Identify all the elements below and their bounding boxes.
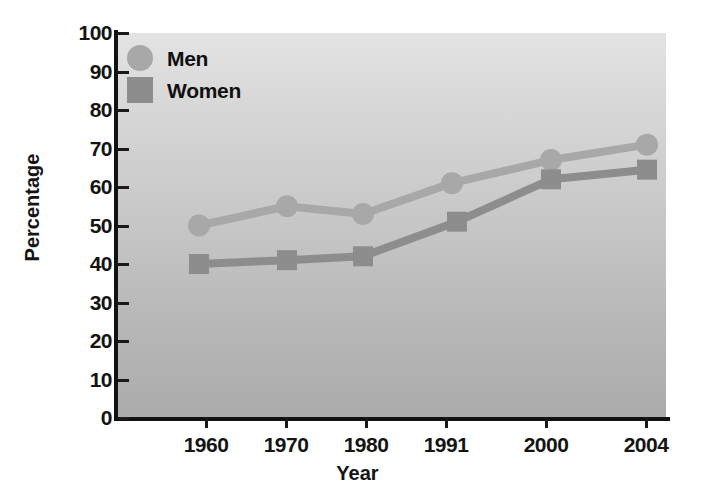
men-circle-marker-icon — [127, 45, 153, 71]
y-tick-label-30: 30 — [56, 292, 112, 313]
x-tick-1980 — [365, 417, 368, 428]
legend: Men Women — [127, 42, 297, 106]
x-tick-2004 — [645, 417, 648, 428]
y-tick-label-50: 50 — [56, 215, 112, 236]
data-point-women-2004 — [637, 160, 657, 180]
data-point-women-2000 — [541, 169, 561, 189]
y-tick-label-80: 80 — [56, 99, 112, 120]
x-tick-label-1960: 1960 — [184, 434, 229, 455]
series-men — [188, 134, 658, 237]
x-tick-label-2004: 2004 — [624, 434, 669, 455]
x-tick-label-1991: 1991 — [424, 434, 469, 455]
data-point-women-1960 — [189, 254, 209, 274]
y-tick-label-10: 10 — [56, 369, 112, 390]
y-tick-label-70: 70 — [56, 138, 112, 159]
legend-item-women: Women — [127, 74, 297, 106]
data-point-men-2004 — [636, 134, 658, 156]
data-point-men-1980 — [352, 203, 374, 225]
y-axis-tick-labels: 1009080706050403020100 — [46, 0, 112, 490]
data-point-women-1970 — [277, 250, 297, 270]
y-tick-label-90: 90 — [56, 61, 112, 82]
series-line-men — [199, 145, 647, 226]
x-tick-label-2000: 2000 — [524, 434, 569, 455]
x-tick-1970 — [285, 417, 288, 428]
chart-figure: 1009080706050403020100 19601970198019912… — [0, 0, 715, 490]
y-tick-label-100: 100 — [56, 22, 112, 43]
legend-item-men: Men — [127, 42, 297, 74]
data-point-men-1991 — [441, 172, 463, 194]
series-line-women — [199, 170, 647, 264]
data-point-men-2000 — [540, 149, 562, 171]
y-tick-label-0: 0 — [56, 407, 112, 428]
x-tick-1960 — [205, 417, 208, 428]
data-point-women-1980 — [353, 246, 373, 266]
x-axis-title: Year — [0, 462, 715, 485]
x-tick-label-1980: 1980 — [344, 434, 389, 455]
series-women — [189, 160, 657, 274]
y-tick-label-20: 20 — [56, 330, 112, 351]
x-tick-1991 — [445, 417, 448, 428]
data-point-men-1960 — [188, 215, 210, 237]
legend-label-women: Women — [167, 80, 241, 101]
x-tick-label-1970: 1970 — [264, 434, 309, 455]
y-tick-label-60: 60 — [56, 176, 112, 197]
y-tick-label-40: 40 — [56, 253, 112, 274]
data-point-women-1991 — [447, 212, 467, 232]
x-tick-2000 — [545, 417, 548, 428]
legend-label-men: Men — [167, 48, 208, 69]
y-axis-title: Percentage — [21, 138, 44, 278]
data-point-men-1970 — [276, 195, 298, 217]
women-square-marker-icon — [127, 77, 153, 103]
